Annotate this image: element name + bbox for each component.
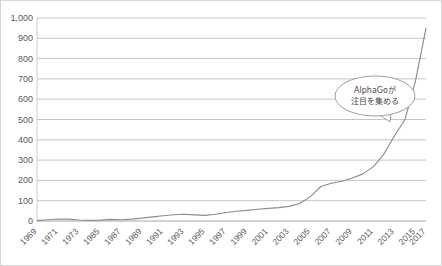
xtick-1991: 1991	[144, 226, 165, 247]
ytick-400: 400	[18, 135, 33, 145]
ytick-900: 900	[18, 33, 33, 43]
ytick-500: 500	[18, 115, 33, 125]
callout-line-2: 注目を集める	[351, 96, 399, 106]
xtick-1989: 1989	[123, 226, 144, 247]
xtick-2011: 2011	[355, 226, 375, 246]
xtick-2009: 2009	[333, 226, 354, 247]
ytick-300: 300	[18, 155, 33, 165]
callout-line-1: AlphaGoが	[354, 85, 396, 95]
xtick-1993: 1993	[165, 226, 186, 247]
xtick-2005: 2005	[291, 226, 312, 247]
ytick-800: 800	[18, 54, 33, 64]
xtick-1971: 1971	[39, 226, 60, 247]
xtick-1985: 1985	[81, 226, 102, 247]
chart-canvas: 1,000 900 800 700 600 500 400 300 200 10…	[0, 0, 442, 266]
callout-bubble	[335, 76, 415, 116]
xtick-1999: 1999	[228, 226, 249, 247]
ytick-100: 100	[18, 196, 33, 206]
ytick-600: 600	[18, 94, 33, 104]
line-chart: 1,000 900 800 700 600 500 400 300 200 10…	[0, 0, 442, 266]
xtick-2003: 2003	[270, 226, 291, 247]
xtick-1987: 1987	[102, 226, 123, 247]
ytick-200: 200	[18, 175, 33, 185]
xtick-2007: 2007	[312, 226, 333, 247]
gridlines	[37, 18, 426, 221]
xtick-2013: 2013	[375, 226, 396, 247]
y-axis-labels: 1,000 900 800 700 600 500 400 300 200 10…	[10, 13, 33, 226]
ytick-0: 0	[28, 216, 33, 226]
ytick-700: 700	[18, 74, 33, 84]
xtick-1969: 1969	[18, 226, 39, 247]
x-axis-labels: 1969197119731985198719891991199319951997…	[18, 226, 428, 247]
xtick-1973: 1973	[60, 226, 81, 247]
alphago-callout: AlphaGoが 注目を集める	[335, 76, 415, 122]
xtick-2001: 2001	[249, 226, 270, 247]
xtick-1995: 1995	[186, 226, 207, 247]
data-series-line	[37, 28, 426, 220]
xtick-1997: 1997	[207, 226, 228, 247]
ytick-1000: 1,000	[10, 13, 33, 23]
chart-frame	[1, 1, 442, 266]
